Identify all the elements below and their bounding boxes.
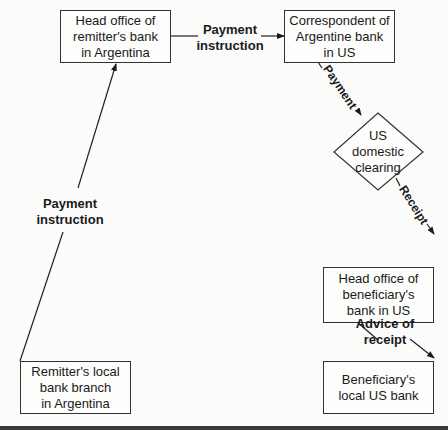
node-label: Remitter's local bank branch in Argentin… [31, 364, 119, 412]
edge-label-local-to-head: Payment instruction [30, 196, 110, 228]
edge-label-advice: Advice of receipt [345, 316, 425, 348]
node-correspondent-us: Correspondent of Argentine bank in US [284, 10, 395, 63]
node-beneficiary-head-office: Head office of beneficiary's bank in US [323, 267, 434, 323]
bottom-rule [0, 426, 448, 430]
node-label: Head office of beneficiary's bank in US [339, 271, 419, 319]
node-remitter-local: Remitter's local bank branch in Argentin… [20, 361, 131, 414]
node-us-clearing: US domestic clearing [340, 128, 416, 176]
node-label: Beneficiary's local US bank [338, 372, 418, 404]
node-label: Correspondent of Argentine bank in US [289, 13, 389, 61]
node-label: Head office of remitter's bank in Argent… [73, 13, 158, 61]
edge-label-head-to-correspondent: Payment instruction [190, 22, 270, 54]
node-remitter-head-office: Head office of remitter's bank in Argent… [60, 10, 171, 63]
node-beneficiary-local: Beneficiary's local US bank [323, 361, 434, 414]
